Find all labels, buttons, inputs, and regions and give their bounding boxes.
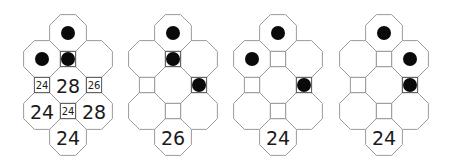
oct-bottom-label: 24	[56, 127, 80, 149]
sq-left-square	[244, 77, 259, 92]
sq-left-square	[139, 77, 154, 92]
dot-icon	[35, 52, 49, 66]
sq-lower-square	[165, 103, 180, 118]
oct-lower-left-label: 24	[30, 101, 54, 123]
oct-center-label: 28	[56, 75, 80, 97]
sq-upper-square	[270, 51, 285, 66]
sq-left-label: 24	[36, 80, 49, 91]
panel-1: 24282624242824	[24, 15, 113, 156]
sq-right-label: 26	[88, 80, 101, 91]
dot-icon	[166, 26, 180, 40]
oct-lower-right-label: 28	[82, 101, 106, 123]
dot-icon	[61, 26, 75, 40]
oct-bottom-label: 24	[372, 127, 396, 149]
sq-left-square	[350, 77, 365, 92]
panel-4: 24	[340, 15, 429, 156]
dot-icon	[271, 26, 285, 40]
sq-lower-square	[270, 103, 285, 118]
dot-icon	[297, 78, 311, 92]
dot-icon	[403, 52, 417, 66]
dot-icon	[403, 78, 417, 92]
dot-icon	[192, 78, 206, 92]
panel-2: 26	[129, 15, 218, 156]
sq-lower-label: 24	[62, 106, 75, 117]
tiling-diagram: 24282624242824262424	[0, 0, 452, 164]
dot-icon	[377, 26, 391, 40]
oct-bottom-label: 24	[266, 127, 290, 149]
panel-3: 24	[234, 15, 323, 156]
sq-upper-square	[376, 51, 391, 66]
dot-icon	[166, 52, 180, 66]
dot-icon	[245, 52, 259, 66]
sq-lower-square	[376, 103, 391, 118]
dot-icon	[61, 52, 75, 66]
oct-bottom-label: 26	[161, 127, 185, 149]
